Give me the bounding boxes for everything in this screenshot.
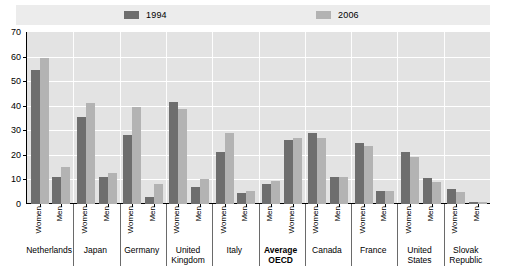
bar-2006-average-oecd-women bbox=[293, 138, 302, 204]
gender-label-women: Women bbox=[35, 206, 43, 233]
bar-1994-canada-men bbox=[330, 177, 339, 204]
legend-swatch-2006 bbox=[316, 11, 331, 19]
y-tick-label-20: 20 bbox=[0, 151, 21, 160]
bar-1994-italy-men bbox=[237, 193, 246, 204]
bar-1994-united-kingdom-women bbox=[169, 102, 178, 204]
bar-2006-canada-men bbox=[339, 177, 348, 204]
gender-label-women: Women bbox=[405, 206, 413, 233]
group-separator bbox=[120, 204, 121, 266]
legend-swatch-1994 bbox=[124, 11, 139, 19]
gender-label-men: Men bbox=[266, 206, 274, 222]
country-label-united-states: United States bbox=[396, 246, 442, 265]
bars-layer bbox=[27, 32, 490, 204]
gender-label-men: Men bbox=[473, 206, 481, 222]
country-label-netherlands: Netherlands bbox=[26, 246, 72, 256]
bar-2006-united-kingdom-women bbox=[178, 109, 187, 204]
bar-2006-italy-men bbox=[246, 191, 255, 205]
gender-label-men: Men bbox=[103, 206, 111, 222]
bar-1994-italy-women bbox=[216, 152, 225, 204]
bar-2006-netherlands-men bbox=[61, 167, 70, 204]
gender-label-men: Men bbox=[380, 206, 388, 222]
bar-2006-united-states-men bbox=[432, 182, 441, 204]
gender-label-women: Women bbox=[173, 206, 181, 233]
bar-1994-france-men bbox=[376, 191, 385, 205]
y-tick-label-0: 0 bbox=[0, 200, 21, 209]
bar-2006-france-women bbox=[364, 146, 373, 204]
gender-label-women: Women bbox=[127, 206, 135, 233]
bar-2006-average-oecd-men bbox=[271, 181, 280, 204]
bar-1994-japan-men bbox=[99, 177, 108, 204]
bar-2006-slovak-republic-women bbox=[456, 192, 465, 204]
gender-label-women: Women bbox=[81, 206, 89, 233]
gender-label-women: Women bbox=[359, 206, 367, 233]
y-tick-label-10: 10 bbox=[0, 175, 21, 184]
bar-2006-united-states-women bbox=[410, 157, 419, 204]
group-separator bbox=[73, 204, 74, 266]
gender-label-women: Women bbox=[288, 206, 296, 233]
country-label-france: France bbox=[350, 246, 396, 256]
bar-2006-united-kingdom-men bbox=[200, 179, 209, 204]
group-separator bbox=[351, 204, 352, 266]
country-label-germany: Germany bbox=[119, 246, 165, 256]
chart-legend: 1994 2006 bbox=[16, 5, 490, 25]
gender-label-men: Men bbox=[241, 206, 249, 222]
bar-1994-germany-men bbox=[145, 197, 154, 204]
bar-2006-italy-women bbox=[225, 133, 234, 204]
group-separator bbox=[305, 204, 306, 266]
country-label-average-oecd: Average OECD bbox=[258, 246, 304, 265]
gender-label-women: Women bbox=[220, 206, 228, 233]
bar-1994-netherlands-men bbox=[52, 177, 61, 204]
gender-label-women: Women bbox=[312, 206, 320, 233]
gender-label-men: Men bbox=[56, 206, 64, 222]
gender-label-men: Men bbox=[149, 206, 157, 222]
legend-entry-2006: 2006 bbox=[316, 5, 359, 25]
bar-2006-netherlands-women bbox=[40, 58, 49, 204]
bar-1994-united-states-men bbox=[423, 178, 432, 204]
y-tick-label-30: 30 bbox=[0, 126, 21, 135]
x-axis-labels: WomenMenNetherlandsWomenMenJapanWomenMen… bbox=[26, 204, 490, 267]
bar-1994-germany-women bbox=[123, 135, 132, 204]
bar-2006-japan-women bbox=[86, 103, 95, 204]
group-separator bbox=[212, 204, 213, 266]
bar-1994-average-oecd-women bbox=[284, 140, 293, 204]
gender-label-men: Men bbox=[427, 206, 435, 222]
bar-1994-average-oecd-men bbox=[262, 184, 271, 204]
bar-2006-canada-women bbox=[317, 138, 326, 204]
y-tick-label-60: 60 bbox=[0, 53, 21, 62]
bar-1994-netherlands-women bbox=[31, 70, 40, 204]
bar-1994-canada-women bbox=[308, 133, 317, 204]
bar-1994-united-kingdom-men bbox=[191, 187, 200, 204]
country-label-united-kingdom: United Kingdom bbox=[165, 246, 211, 265]
legend-label-1994: 1994 bbox=[146, 11, 167, 20]
country-label-canada: Canada bbox=[304, 246, 350, 256]
bar-1994-united-states-women bbox=[401, 152, 410, 204]
bar-1994-japan-women bbox=[77, 117, 86, 204]
gender-label-men: Men bbox=[195, 206, 203, 222]
bar-1994-france-women bbox=[355, 143, 364, 204]
country-label-italy: Italy bbox=[211, 246, 257, 256]
y-tick-label-50: 50 bbox=[0, 77, 21, 86]
country-label-slovak-republic: Slovak Republic bbox=[443, 246, 489, 265]
gender-label-men: Men bbox=[334, 206, 342, 222]
legend-label-2006: 2006 bbox=[338, 11, 359, 20]
y-tick-label-70: 70 bbox=[0, 28, 21, 37]
y-tick-label-40: 40 bbox=[0, 102, 21, 111]
bar-2006-japan-men bbox=[108, 173, 117, 204]
legend-entry-1994: 1994 bbox=[124, 5, 167, 25]
bar-2006-france-men bbox=[385, 191, 394, 205]
bar-1994-slovak-republic-women bbox=[447, 189, 456, 204]
bar-2006-germany-men bbox=[154, 184, 163, 204]
bar-chart: 1994 2006 010203040506070 WomenMenNether… bbox=[0, 0, 506, 267]
country-label-japan: Japan bbox=[72, 246, 118, 256]
gender-label-women: Women bbox=[451, 206, 459, 233]
bar-2006-germany-women bbox=[132, 107, 141, 204]
